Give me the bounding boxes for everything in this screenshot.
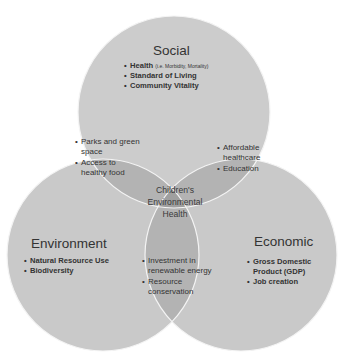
economic-list: Gross Domestic Product (GDP) Job creatio…	[247, 257, 311, 287]
list-item: Gross Domestic	[247, 257, 311, 267]
list-item-continued: Product (GDP)	[247, 267, 311, 277]
list-item: Standard of Living	[124, 71, 208, 81]
social-list: Health (i.e. Morbidity, Mortality) Stand…	[124, 61, 208, 91]
list-item: Resourceconservation	[142, 277, 212, 298]
list-item: Access tohealthy food	[75, 158, 140, 179]
list-item: Parks and greenspace	[75, 137, 140, 158]
list-item: Biodiversity	[24, 266, 109, 276]
environment-title: Environment	[31, 236, 107, 251]
economic-title: Economic	[254, 234, 313, 249]
social-environment-list: Parks and greenspace Access tohealthy fo…	[75, 137, 140, 179]
list-item: Community Vitality	[124, 81, 208, 91]
list-item: Affordablehealthcare	[217, 143, 260, 164]
list-item: Health (i.e. Morbidity, Mortality)	[124, 61, 208, 71]
environment-list: Natural Resource Use Biodiversity	[24, 256, 109, 276]
environment-economic-list: Investment inrenewable energy Resourceco…	[142, 256, 212, 298]
social-title: Social	[153, 43, 190, 58]
list-item: Investment inrenewable energy	[142, 256, 212, 277]
list-item: Job creation	[247, 277, 311, 287]
center-label: Children's Environmental Health	[138, 184, 212, 220]
health-note: (i.e. Morbidity, Mortality)	[155, 63, 208, 69]
list-item: Education	[217, 164, 260, 174]
list-item: Natural Resource Use	[24, 256, 109, 266]
social-economic-list: Affordablehealthcare Education	[217, 143, 260, 174]
